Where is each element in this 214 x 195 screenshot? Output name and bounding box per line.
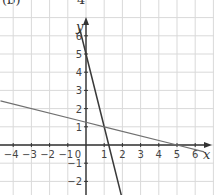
y-tick-label: −2	[67, 176, 82, 187]
x-tick-label: 3	[137, 149, 143, 160]
y-axis-arrow-icon	[83, 17, 89, 25]
x-tick-label: 1	[101, 149, 107, 160]
y-axis-label: y	[75, 19, 84, 34]
y-tick-label: 2	[76, 104, 82, 115]
x-tick-label: −3	[22, 149, 37, 160]
x-tick-label: 5	[174, 149, 180, 160]
x-tick-label: −2	[40, 149, 55, 160]
y-tick-label: 5	[76, 49, 82, 60]
line-chart: −4−3−2−1123456−2−11234560xy	[0, 0, 214, 195]
y-tick-label: 4	[76, 67, 82, 78]
y-tick-label: 1	[76, 122, 82, 133]
x-tick-label: 2	[119, 149, 125, 160]
origin-label: 0	[75, 149, 81, 160]
y-tick-label: 3	[76, 85, 82, 96]
x-tick-label: 4	[156, 149, 162, 160]
x-axis-label: x	[203, 147, 211, 162]
x-tick-label: −4	[4, 149, 19, 160]
